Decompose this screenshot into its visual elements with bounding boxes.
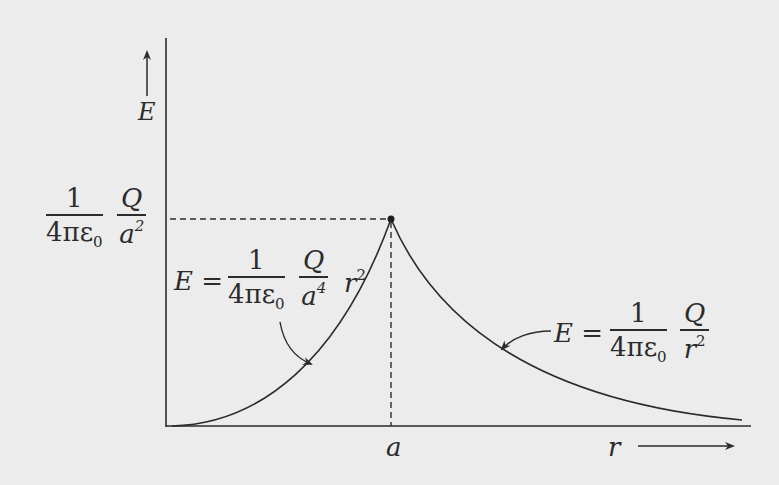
- outside-formula-coefficient: 1 4πε0: [610, 300, 667, 365]
- outside-formula-charge-ratio: Q r2: [680, 300, 709, 362]
- peak-point: [388, 216, 395, 223]
- peak-label-charge-ratio: Q a2: [117, 185, 146, 247]
- x-axis-label: r: [608, 434, 620, 460]
- outside-formula-lhs: E =: [554, 320, 603, 346]
- inside-formula-r-squared: r2: [344, 268, 366, 296]
- inside-formula-coefficient: 1 4πε0: [228, 247, 285, 312]
- y-axis-label: E: [138, 100, 156, 124]
- peak-label-coefficient: 1 4πε0: [46, 185, 103, 250]
- diagram-canvas: E a r 1 4πε0 Q a2 E = 1 4πε0 Q a4 r2 E =…: [0, 0, 779, 485]
- inside-formula-lhs: E =: [174, 268, 223, 294]
- x-axis-marker-a: a: [386, 434, 402, 460]
- inside-formula-charge-ratio: Q a4: [299, 247, 328, 309]
- outside-callout-arrow-icon: [502, 331, 551, 349]
- inside-callout-arrow-icon: [280, 322, 311, 364]
